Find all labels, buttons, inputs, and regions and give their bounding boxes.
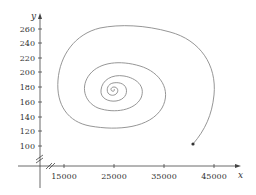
x-tick-label: 15000 — [51, 172, 76, 181]
x-axis-label: x — [238, 170, 243, 180]
y-tick-label: 140 — [20, 113, 35, 122]
y-tick-label: 180 — [20, 83, 35, 92]
start-point-marker — [191, 142, 194, 145]
y-tick-label: 220 — [20, 54, 35, 63]
y-tick-label: 160 — [20, 98, 35, 107]
trajectory-curve — [58, 26, 215, 144]
y-tick-label: 120 — [20, 127, 35, 136]
phase-plot: 100 120 140 160 180 200 220 240 260 1500… — [0, 0, 256, 195]
y-tick-label: 240 — [20, 39, 35, 48]
x-axis — [18, 163, 241, 169]
x-tick-label: 25000 — [101, 172, 126, 181]
y-axis — [36, 13, 43, 188]
y-tick-label: 200 — [20, 68, 35, 77]
x-tick-label: 45000 — [201, 172, 226, 181]
y-axis-label: y — [30, 11, 37, 21]
x-tick-label: 35000 — [151, 172, 176, 181]
y-axis-arrow-icon — [38, 13, 42, 19]
x-tick-labels: 15000 25000 35000 45000 — [51, 172, 226, 181]
y-tick-label: 100 — [20, 142, 35, 151]
x-axis-arrow-icon — [235, 164, 241, 168]
y-tick-labels: 100 120 140 160 180 200 220 240 260 — [20, 25, 35, 151]
y-tick-label: 260 — [20, 25, 35, 34]
